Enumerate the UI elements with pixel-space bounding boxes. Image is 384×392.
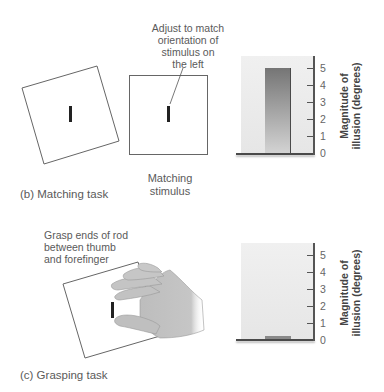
y-tick xyxy=(307,119,314,120)
y-axis-label-line: Magnitude of xyxy=(338,238,350,348)
grasp-annotation-line: between thumb xyxy=(44,241,128,253)
y-axis-label: Magnitude of illusion (degrees) xyxy=(338,238,364,348)
y-axis xyxy=(313,56,315,155)
caption-grasping-task: (c) Grasping task xyxy=(20,369,108,381)
rod-grasping xyxy=(111,302,114,318)
y-tick xyxy=(307,289,314,290)
y-axis xyxy=(313,243,315,341)
adjust-annotation: Adjust to match orientation of stimulus … xyxy=(140,22,236,70)
y-tick-label: 2 xyxy=(320,300,330,312)
y-tick-label: 5 xyxy=(320,62,330,74)
y-tick-label: 0 xyxy=(320,334,330,346)
y-tick xyxy=(307,255,314,256)
y-tick xyxy=(307,85,314,86)
caption-matching-task: (b) Matching task xyxy=(20,188,108,200)
matching-stimulus-label-line: Matching xyxy=(128,172,212,185)
grasp-annotation-line: and forefinger xyxy=(44,253,128,265)
rod-left-matching xyxy=(69,106,72,122)
grasp-annotation: Grasp ends of rod between thumb and fore… xyxy=(44,229,128,265)
y-axis-label-line: illusion (degrees) xyxy=(350,238,362,348)
adjust-annotation-line: orientation of xyxy=(140,34,236,46)
adjust-annotation-line: stimulus on xyxy=(140,46,236,58)
y-tick xyxy=(307,306,314,307)
y-tick xyxy=(307,136,314,137)
rod-matching-stimulus xyxy=(167,106,170,122)
y-tick xyxy=(307,323,314,324)
chart-panel-bg xyxy=(241,243,314,340)
y-tick-label: 1 xyxy=(320,317,330,329)
y-tick-label: 3 xyxy=(320,96,330,108)
grasp-annotation-line: Grasp ends of rod xyxy=(44,229,128,241)
y-tick-label: 3 xyxy=(320,283,330,295)
y-axis-label: Magnitude of illusion (degrees) xyxy=(338,51,364,161)
y-tick-label: 0 xyxy=(320,147,330,159)
adjust-annotation-line: Adjust to match xyxy=(140,22,236,34)
y-tick-label: 4 xyxy=(320,266,330,278)
y-tick-label: 4 xyxy=(320,79,330,91)
adjust-annotation-line: the left xyxy=(140,58,236,70)
y-axis-label-line: illusion (degrees) xyxy=(350,51,362,161)
y-tick xyxy=(307,272,314,273)
chart-baseline xyxy=(236,153,315,155)
bar-matching xyxy=(265,68,291,154)
y-axis-label-line: Magnitude of xyxy=(338,51,350,161)
y-tick-label: 1 xyxy=(320,130,330,142)
y-tick xyxy=(307,102,314,103)
y-tick-label: 2 xyxy=(320,113,330,125)
y-tick-label: 5 xyxy=(320,249,330,261)
chart-baseline xyxy=(236,339,315,341)
y-tick xyxy=(307,68,314,69)
matching-stimulus-label: Matching stimulus xyxy=(128,172,212,198)
matching-stimulus-label-line: stimulus xyxy=(128,185,212,198)
